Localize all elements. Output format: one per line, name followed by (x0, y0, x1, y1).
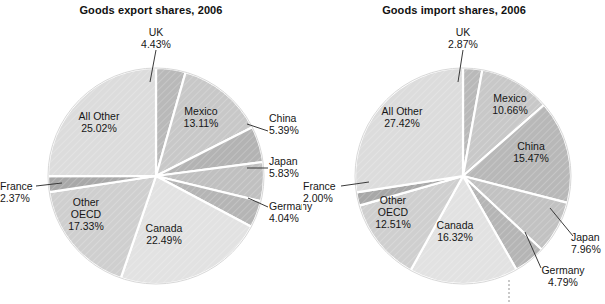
slice-label-mexico: Mexico 10.66% (479, 92, 541, 116)
slice-label-other-oecd: Other OECD 17.33% (58, 196, 114, 232)
slice-label-all-other-name: All Other (62, 110, 136, 122)
slice-label-all-other: All Other 27.42% (365, 105, 439, 129)
slice-label-germany-value: 4.79% (534, 276, 592, 288)
slice-label-uk: UK 4.43% (130, 26, 182, 50)
slice-label-japan-name: Japan (571, 231, 605, 243)
slice-label-china-value: 15.47% (503, 152, 559, 164)
slice-label-other-oecd-value: 17.33% (58, 220, 114, 232)
slice-label-mexico: Mexico 13.11% (172, 105, 230, 129)
slice-label-canada: Canada 16.32% (424, 219, 486, 243)
slice-label-japan-value: 7.96% (571, 243, 605, 255)
chart-panel-goods-export-shares: Goods export shares, 2006 UK 4.43% (0, 0, 302, 304)
slice-label-canada: Canada 22.49% (133, 222, 195, 246)
slice-label-germany: Germany 4.79% (534, 264, 592, 288)
slice-label-france-name: France (303, 180, 345, 192)
slice-label-uk-name: UK (130, 26, 182, 38)
slice-label-uk-value: 4.43% (130, 38, 182, 50)
dotted-marker (508, 280, 510, 302)
slice-label-other-oecd-name1: Other (365, 194, 421, 206)
slice-label-all-other: All Other 25.02% (62, 110, 136, 134)
slice-label-france-value: 2.00% (303, 192, 345, 204)
slice-label-france: France 2.00% (303, 180, 345, 204)
slice-label-mexico-name: Mexico (172, 105, 230, 117)
slice-label-canada-value: 16.32% (424, 231, 486, 243)
pie-slice-all-other[interactable] (355, 68, 463, 192)
slice-label-japan: Japan 7.96% (571, 231, 605, 255)
slice-label-china-name: China (503, 140, 559, 152)
slice-label-mexico-name: Mexico (479, 92, 541, 104)
slice-label-uk-value: 2.87% (437, 38, 489, 50)
slice-label-france-name: France (0, 180, 40, 192)
slice-label-mexico-value: 10.66% (479, 104, 541, 116)
slice-label-mexico-value: 13.11% (172, 117, 230, 129)
slice-label-france: France 2.37% (0, 180, 40, 204)
slice-label-uk: UK 2.87% (437, 26, 489, 50)
slice-label-other-oecd-value: 12.51% (365, 218, 421, 230)
slice-label-all-other-value: 27.42% (365, 117, 439, 129)
slice-label-canada-value: 22.49% (133, 234, 195, 246)
slice-label-other-oecd: Other OECD 12.51% (365, 194, 421, 230)
slice-label-other-oecd-name1: Other (58, 196, 114, 208)
slice-label-germany-name: Germany (534, 264, 592, 276)
slice-label-other-oecd-name2: OECD (365, 206, 421, 218)
slice-label-uk-name: UK (437, 26, 489, 38)
slice-label-canada-name: Canada (424, 219, 486, 231)
slice-label-canada-name: Canada (133, 222, 195, 234)
slice-label-all-other-value: 25.02% (62, 122, 136, 134)
slice-label-china: China 15.47% (503, 140, 559, 164)
slice-label-all-other-name: All Other (365, 105, 439, 117)
slice-label-other-oecd-name2: OECD (58, 208, 114, 220)
slice-label-france-value: 2.37% (0, 192, 40, 204)
figure-canvas: Goods export shares, 2006 UK 4.43% (0, 0, 605, 304)
chart-panel-goods-import-shares: Goods import shares, 2006 UK 2.87% Mexic… (303, 0, 605, 304)
